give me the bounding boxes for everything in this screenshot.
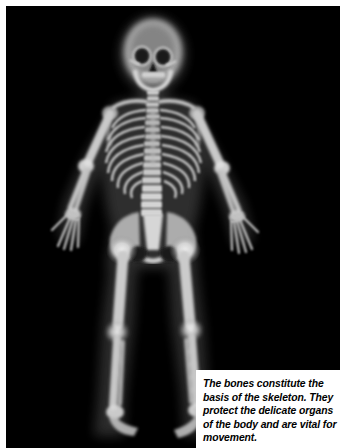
caption-text: The bones constitute the basis of the sk…: [203, 377, 339, 445]
caption-box: The bones constitute the basis of the sk…: [196, 370, 344, 448]
xray-page: The bones constitute the basis of the sk…: [0, 0, 344, 448]
